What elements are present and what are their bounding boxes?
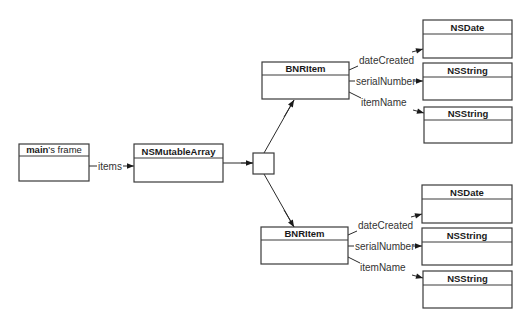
nodes-layer: main's frameNSMutableArrayBNRItemNSDateN…: [19, 20, 512, 308]
node-title: NSDate: [451, 22, 485, 33]
edge-slot-to-item1: [264, 100, 294, 153]
node-title: BNRItem: [285, 63, 325, 74]
node-title: NSDate: [450, 187, 484, 198]
node-item2: BNRItem: [261, 227, 348, 264]
edge-line: [348, 257, 360, 263]
node-title: NSString: [447, 230, 488, 241]
node-item2Serial: NSString: [422, 228, 512, 265]
node-title: BNRItem: [284, 228, 324, 239]
edge-line: [348, 231, 357, 235]
node-title: NSString: [447, 273, 488, 284]
edge-label-item1-serialNumber: serialNumber: [356, 76, 416, 87]
edge-label-item2-serialNumber: serialNumber: [355, 241, 415, 252]
edge-label-item1-itemName: itemName: [361, 97, 407, 108]
node-box: [253, 153, 274, 174]
arrowhead-icon: [417, 108, 424, 113]
node-slot: [253, 153, 274, 174]
arrowhead-icon: [288, 220, 294, 227]
node-mainFrame: main's frame: [19, 144, 89, 181]
edge-label-item2-itemName: itemName: [360, 262, 406, 273]
edge-slot-to-item2: [264, 174, 294, 227]
arrowhead-icon: [416, 78, 423, 84]
node-title: NSString: [447, 65, 488, 76]
edge-label-items: items: [98, 161, 122, 172]
node-title: NSMutableArray: [142, 146, 217, 157]
node-title: main's frame: [26, 144, 82, 155]
node-item1Date: NSDate: [423, 20, 512, 58]
arrowhead-icon: [246, 160, 253, 166]
edge-array-to-slot: [223, 160, 253, 166]
node-item2Date: NSDate: [422, 185, 512, 223]
node-item1Name: NSString: [424, 107, 512, 143]
arrowhead-icon: [416, 48, 423, 53]
edge-label-item2-dateCreated: dateCreated: [358, 220, 413, 231]
node-title: NSString: [448, 108, 489, 119]
edge-line: [349, 66, 358, 70]
arrowhead-icon: [415, 213, 422, 218]
arrowhead-icon: [127, 163, 134, 169]
node-item2Name: NSString: [423, 271, 512, 308]
arrowhead-icon: [288, 100, 294, 107]
arrowhead-icon: [416, 273, 423, 278]
node-array: NSMutableArray: [134, 144, 223, 182]
edge-line: [349, 92, 361, 98]
edge-label-item1-dateCreated: dateCreated: [359, 55, 414, 66]
arrowhead-icon: [415, 243, 422, 249]
node-item1Serial: NSString: [423, 63, 512, 100]
object-diagram: main's frameNSMutableArrayBNRItemNSDateN…: [0, 0, 532, 322]
node-item1: BNRItem: [262, 62, 349, 99]
